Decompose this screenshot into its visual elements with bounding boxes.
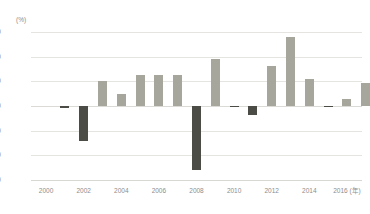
bar <box>79 106 88 141</box>
y-axis-tick-label: -40 <box>0 152 1 159</box>
y-axis-tick-label: 20 <box>0 78 1 85</box>
bar <box>154 75 163 106</box>
plot-area <box>31 32 362 180</box>
y-axis-tick-label: -20 <box>0 128 1 135</box>
y-axis-tick-label: 60 <box>0 29 1 36</box>
bar <box>98 81 107 106</box>
y-axis-tick-label: -60 <box>0 177 1 184</box>
x-axis-tick-label: 2014 <box>302 188 316 195</box>
bar <box>230 106 239 107</box>
bar <box>60 106 69 108</box>
bar <box>117 94 126 106</box>
y-axis-unit-label: (%) <box>16 17 26 24</box>
bar <box>305 79 314 106</box>
x-axis-tick-label: 2000 <box>39 188 53 195</box>
bar <box>136 75 145 106</box>
x-axis-tick-label: 2008 <box>189 188 203 195</box>
x-axis-tick-label: 2002 <box>76 188 90 195</box>
gridline <box>31 57 362 58</box>
y-axis-tick-label: 40 <box>0 54 1 61</box>
x-axis-line <box>31 180 362 181</box>
bar <box>248 106 257 115</box>
bar <box>342 99 351 106</box>
bar-chart: (%) 6040200-20-40-60 2000200220042006200… <box>0 0 370 214</box>
bar <box>192 106 201 170</box>
bar <box>324 106 333 107</box>
x-axis-tick-label: 2004 <box>114 188 128 195</box>
x-axis-tick-label: 2016 (年) <box>333 188 361 195</box>
bar <box>173 75 182 106</box>
bar <box>211 59 220 106</box>
x-axis-tick-label: 2012 <box>264 188 278 195</box>
y-axis-tick-label: 0 <box>0 103 1 110</box>
bar <box>267 66 276 106</box>
gridline <box>31 32 362 33</box>
bar <box>286 37 295 106</box>
bar <box>361 83 370 106</box>
x-axis-tick-label: 2006 <box>152 188 166 195</box>
x-axis-tick-label: 2010 <box>227 188 241 195</box>
